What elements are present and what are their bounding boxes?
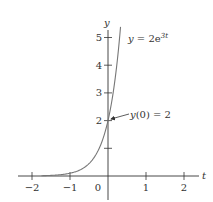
- y-ticks: 2345: [96, 32, 112, 148]
- y-tick-label: 4: [96, 60, 102, 71]
- y-tick-label: 2: [96, 115, 102, 126]
- x-tick-label: 0: [95, 182, 101, 193]
- y-tick-label: 3: [96, 87, 102, 98]
- annotation-arrow: [111, 114, 129, 119]
- x-tick-label: 1: [143, 182, 149, 193]
- curve-label: y = 2e3t: [127, 32, 168, 44]
- y-tick-label: 5: [96, 32, 102, 43]
- x-tick-label: 2: [181, 182, 187, 193]
- curve-y-2e3t: [42, 27, 121, 176]
- x-tick-label: −2: [25, 182, 40, 193]
- x-axis-label: t: [202, 170, 207, 181]
- x-tick-label: −1: [63, 182, 78, 193]
- y-axis-label: y: [103, 17, 110, 28]
- initial-value-label: y(0) = 2: [129, 109, 171, 120]
- exponential-growth-chart: t y −2−1012 2345 y = 2e3t y(0) = 2: [0, 0, 213, 202]
